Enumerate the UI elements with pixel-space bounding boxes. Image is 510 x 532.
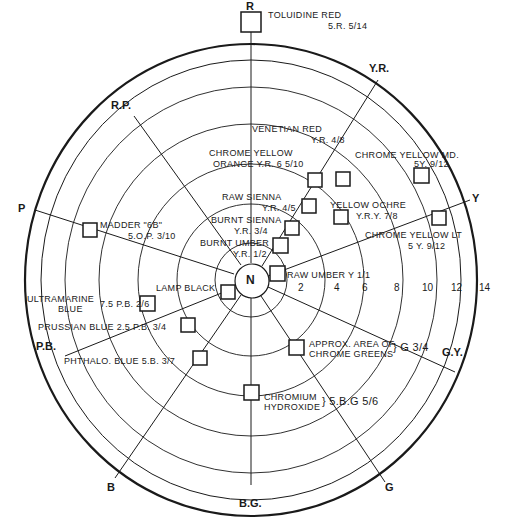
label-burnt-umber-notation: Y.R. 1/2 bbox=[233, 249, 267, 259]
chroma-tick-10: 10 bbox=[422, 282, 433, 293]
label-raw-sienna: RAW SIENNA bbox=[222, 192, 282, 202]
munsell-wheel-graphic bbox=[0, 0, 510, 532]
pigment-marker-chrome-yellow-md bbox=[414, 168, 429, 183]
hue-label-P: P bbox=[18, 202, 25, 214]
hue-label-PB: P.B. bbox=[36, 340, 56, 352]
label-chrome-yellow-md-notation: 5Y. 9/12 bbox=[414, 159, 449, 169]
pigment-marker-raw-umber bbox=[270, 266, 285, 281]
chroma-tick-2: 2 bbox=[298, 282, 304, 293]
neutral-label: N bbox=[246, 273, 255, 287]
label-madder-notation: 5.O.P. 3/10 bbox=[128, 231, 176, 241]
label-toluidine-red: TOLUIDINE RED bbox=[268, 10, 341, 20]
label-yellow-ochre-notation: Y.R.Y. 7/8 bbox=[356, 211, 398, 221]
hue-label-BG: B.G. bbox=[239, 497, 262, 509]
pigment-marker-madder bbox=[83, 223, 97, 237]
hue-label-R: R bbox=[246, 0, 254, 12]
label-burnt-sienna-notation: Y.R. 3/4 bbox=[234, 226, 268, 236]
label-chrome-greens-notation: } G 3/4 bbox=[393, 342, 429, 352]
pigment-marker-raw-sienna bbox=[302, 199, 316, 213]
label-burnt-umber: BURNT UMBER bbox=[200, 238, 269, 248]
label-chrome-yellow-lt: CHROME YELLOW LT bbox=[365, 230, 462, 240]
pigment-marker-lamp-black bbox=[221, 285, 235, 299]
label-raw-sienna-notation: Y.R. 4/5 bbox=[262, 203, 296, 213]
chroma-tick-8: 8 bbox=[394, 282, 400, 293]
pigment-marker-burnt-sienna bbox=[285, 221, 299, 235]
pigment-marker-phthalo-blue bbox=[193, 351, 207, 365]
label-raw-umber: RAW UMBER Y 1/1 bbox=[287, 270, 370, 280]
label-ultramarine-notation: 7.5 P.B. 2/6 bbox=[100, 299, 149, 309]
label-burnt-sienna: BURNT SIENNA bbox=[211, 215, 281, 225]
hue-label-G: G bbox=[385, 481, 394, 493]
label-chromium-hydroxide-notation: } 5.B.G 5/6 bbox=[322, 396, 379, 406]
hue-label-Y: Y bbox=[472, 192, 479, 204]
pigment-marker-chrome-yellow-lt bbox=[432, 211, 446, 225]
chroma-tick-4: 4 bbox=[334, 282, 340, 293]
label-venetian-red: VENETIAN RED bbox=[252, 124, 322, 134]
label-chrome-yellow-orange: CHROME YELLOW bbox=[209, 148, 293, 158]
label-chromium-hydroxide-2: HYDROXIDE bbox=[264, 402, 320, 412]
label-prussian-blue: PRUSSIAN BLUE 2.5 P.B. 3/4 bbox=[38, 322, 166, 332]
chroma-tick-6: 6 bbox=[362, 282, 368, 293]
label-chromium-hydroxide: CHROMIUM bbox=[264, 392, 317, 402]
pigment-marker-toluidine-red bbox=[241, 12, 261, 32]
label-phthalo-blue: PHTHALO. BLUE 5.B. 3/7 bbox=[64, 356, 175, 366]
pigment-marker-prussian-blue bbox=[181, 318, 195, 332]
label-chrome-greens: APPROX. AREA OF bbox=[309, 339, 395, 349]
label-ultramarine: ULTRAMARINE bbox=[27, 294, 94, 304]
spoke-G bbox=[261, 296, 385, 482]
pigment-marker-yellow-ochre bbox=[334, 210, 348, 224]
pigment-marker-burnt-umber bbox=[273, 238, 288, 253]
label-yellow-ochre: YELLOW OCHRE bbox=[330, 200, 406, 210]
label-chrome-yellow-lt-notation: 5 Y. 9/12 bbox=[408, 241, 445, 251]
label-ultramarine-blue: BLUE bbox=[58, 304, 83, 314]
label-venetian-red-notation: Y.R. 4/8 bbox=[311, 135, 345, 145]
pigment-marker-venetian-red bbox=[336, 172, 350, 186]
pigment-marker-chrome-yellow-orange bbox=[308, 173, 322, 187]
label-madder: MADDER "6B" bbox=[100, 220, 162, 230]
label-chrome-yellow-orange-notation: ORANGE Y.R. 6 5/10 bbox=[213, 159, 304, 169]
label-chrome-greens-2: CHROME GREENS bbox=[309, 349, 393, 359]
hue-label-B: B bbox=[107, 481, 115, 493]
hue-label-GY: G.Y. bbox=[442, 346, 463, 358]
pigment-marker-chromium-hydroxide bbox=[244, 385, 259, 400]
label-toluidine-red-notation: 5.R. 5/14 bbox=[328, 21, 367, 31]
chroma-tick-12: 12 bbox=[451, 282, 462, 293]
chroma-tick-14: 14 bbox=[479, 282, 490, 293]
pigment-marker-chrome-greens bbox=[289, 340, 304, 355]
label-lamp-black: LAMP BLACK bbox=[156, 283, 215, 293]
spoke-GY bbox=[268, 287, 455, 372]
hue-label-YR: Y.R. bbox=[369, 62, 389, 74]
hue-label-RP: R.P. bbox=[111, 99, 131, 111]
